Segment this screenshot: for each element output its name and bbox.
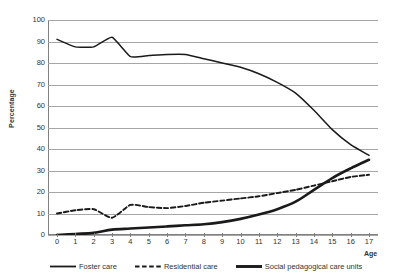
legend-swatch <box>135 262 161 271</box>
x-axis-title: Age <box>364 250 377 257</box>
line-chart: Percentage 0102030405060708090100 012345… <box>0 0 401 280</box>
y-axis-tick-label: 20 <box>19 188 45 196</box>
chart-legend: Foster careResidential careSocial pedago… <box>50 258 370 274</box>
x-axis-tick-label: 16 <box>343 238 359 246</box>
x-axis-tick-label: 10 <box>233 238 249 246</box>
x-axis-tick-mark <box>112 233 113 237</box>
x-axis-tick-mark <box>75 233 76 237</box>
x-axis-tick-mark <box>167 233 168 237</box>
x-axis-tick-label: 13 <box>288 238 304 246</box>
legend-label: Foster care <box>79 262 117 271</box>
legend-label: Residential care <box>164 262 218 271</box>
x-axis-tick-label: 2 <box>86 238 102 246</box>
x-axis-tick-label: 4 <box>122 238 138 246</box>
x-axis-tick-label: 7 <box>177 238 193 246</box>
legend-label: Social pedagogical care units <box>265 262 363 271</box>
y-axis-tick-label: 80 <box>19 59 45 67</box>
x-axis-tick-label: 8 <box>196 238 212 246</box>
x-axis-tick-label: 17 <box>361 238 377 246</box>
x-axis-tick-mark <box>149 233 150 237</box>
x-axis-tick-mark <box>369 233 370 237</box>
x-axis-tick-labels: 01234567891011121314151617 <box>48 238 378 250</box>
x-axis-tick-mark <box>277 233 278 237</box>
y-axis-tick-label: 100 <box>19 16 45 24</box>
legend-item[interactable]: Social pedagogical care units <box>236 262 363 271</box>
y-axis-tick-labels: 0102030405060708090100 <box>15 0 45 280</box>
series-line <box>57 37 369 155</box>
x-axis-tick-mark <box>204 233 205 237</box>
legend-item[interactable]: Residential care <box>135 262 218 271</box>
y-axis-tick-label: 60 <box>19 102 45 110</box>
x-axis-tick-label: 6 <box>159 238 175 246</box>
y-axis-title: Percentage <box>8 74 15 144</box>
legend-swatch <box>50 262 76 271</box>
x-axis-tick-label: 11 <box>251 238 267 246</box>
x-axis-tick-mark <box>351 233 352 237</box>
x-axis-tick-label: 15 <box>324 238 340 246</box>
series-line <box>57 175 369 218</box>
x-axis-tick-mark <box>94 233 95 237</box>
series-line <box>57 160 369 235</box>
series-lines <box>48 20 378 235</box>
x-axis-tick-mark <box>185 233 186 237</box>
y-axis-tick-label: 0 <box>19 231 45 239</box>
plot-area <box>48 20 378 235</box>
x-axis-tick-label: 9 <box>214 238 230 246</box>
y-axis-tick-label: 30 <box>19 167 45 175</box>
x-axis-tick-label: 14 <box>306 238 322 246</box>
x-axis-tick-mark <box>222 233 223 237</box>
x-axis-tick-mark <box>296 233 297 237</box>
y-axis-tick-label: 90 <box>19 38 45 46</box>
x-axis-tick-mark <box>241 233 242 237</box>
y-axis-tick-label: 40 <box>19 145 45 153</box>
x-axis-tick-mark <box>332 233 333 237</box>
x-axis-tick-mark <box>314 233 315 237</box>
legend-item[interactable]: Foster care <box>50 262 117 271</box>
x-axis-tick-label: 1 <box>67 238 83 246</box>
x-axis-tick-mark <box>130 233 131 237</box>
x-axis-tick-label: 12 <box>269 238 285 246</box>
x-axis-tick-label: 5 <box>141 238 157 246</box>
x-axis-tick-label: 3 <box>104 238 120 246</box>
legend-swatch <box>236 262 262 271</box>
x-axis-tick-label: 0 <box>49 238 65 246</box>
gridline <box>48 235 378 236</box>
y-axis-tick-label: 50 <box>19 124 45 132</box>
y-axis-tick-label: 10 <box>19 210 45 218</box>
x-axis-tick-mark <box>259 233 260 237</box>
x-axis-tick-mark <box>57 233 58 237</box>
y-axis-tick-label: 70 <box>19 81 45 89</box>
